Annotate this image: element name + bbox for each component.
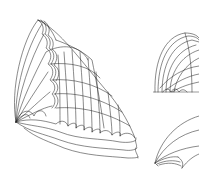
sketch-canvas	[0, 0, 199, 180]
shell-drawings	[0, 0, 199, 180]
main-shell-sketch	[14, 20, 138, 158]
bottom-right-shell-sketch	[155, 116, 199, 168]
top-right-vault-sketch	[153, 33, 199, 92]
